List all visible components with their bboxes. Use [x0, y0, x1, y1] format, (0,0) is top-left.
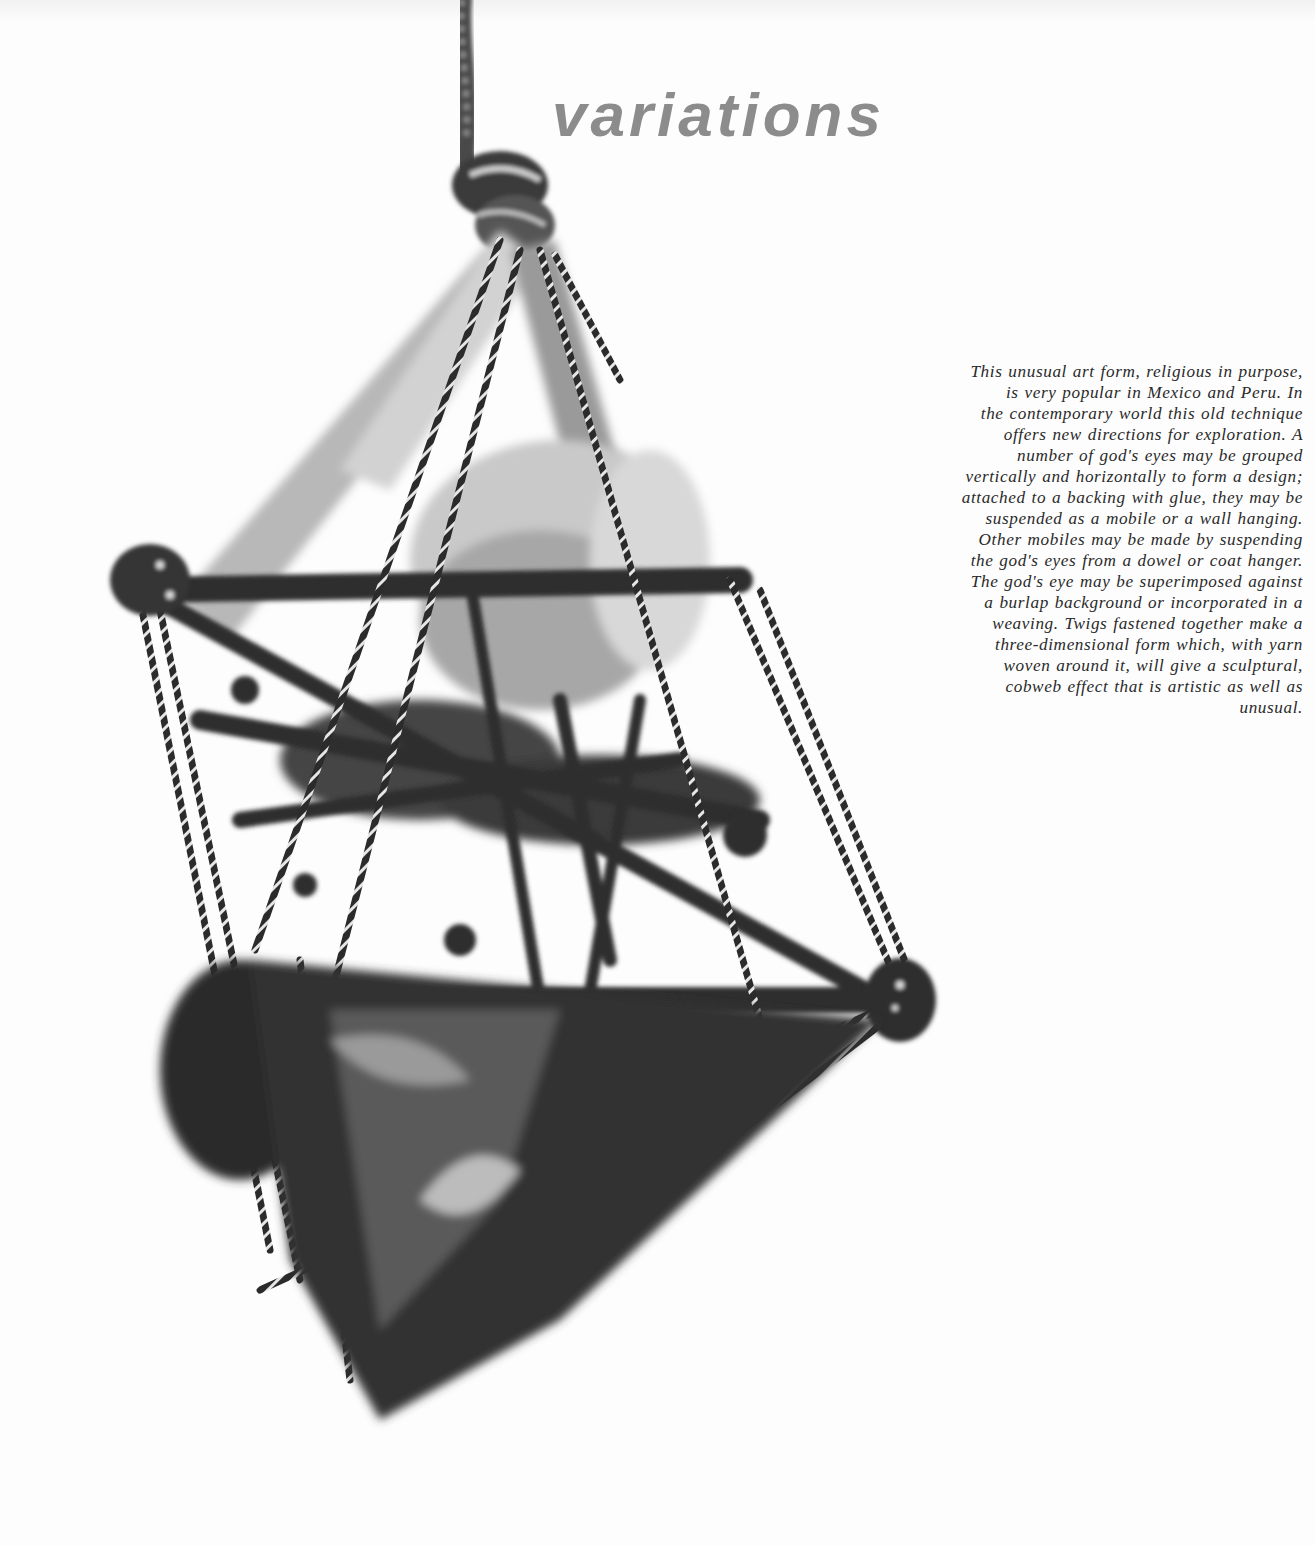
page-title: variations [552, 84, 885, 146]
caption-line: unusual. [883, 697, 1303, 718]
caption-line: cobweb effect that is artistic as well a… [883, 676, 1303, 697]
caption-line: weaving. Twigs fastened together make a [883, 613, 1303, 634]
caption-paragraph: This unusual art form, religious in purp… [883, 361, 1303, 718]
caption-line: three-dimensional form which, with yarn [883, 634, 1303, 655]
hanging-rope [461, 0, 472, 185]
gods-eye-illustration [0, 0, 1000, 1546]
lower-yarn-mass [160, 960, 880, 1420]
caption-line: This unusual art form, religious in purp… [883, 361, 1303, 382]
caption-line: a burlap background or incorporated in a [883, 592, 1303, 613]
caption-line: the god's eyes from a dowel or coat hang… [883, 550, 1303, 571]
left-node [110, 544, 190, 616]
caption-line: is very popular in Mexico and Peru. In [883, 382, 1303, 403]
caption-line: number of god's eyes may be grouped [883, 445, 1303, 466]
caption-line: suspended as a mobile or a wall hanging. [883, 508, 1303, 529]
caption-line: attached to a backing with glue, they ma… [883, 487, 1303, 508]
gods-eye-photo [0, 0, 1000, 1546]
caption-line: Other mobiles may be made by suspending [883, 529, 1303, 550]
caption-line: The god's eye may be superimposed agains… [883, 571, 1303, 592]
caption-line: offers new directions for exploration. A [883, 424, 1303, 445]
caption-line: the contemporary world this old techniqu… [883, 403, 1303, 424]
caption-line: woven around it, will give a sculptural, [883, 655, 1303, 676]
right-node [864, 958, 936, 1042]
caption-line: vertically and horizontally to form a de… [883, 466, 1303, 487]
